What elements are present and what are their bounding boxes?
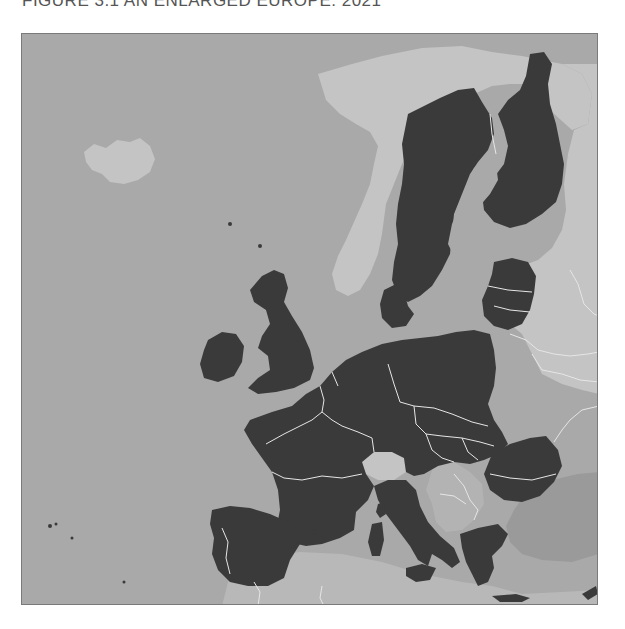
map-frame bbox=[21, 33, 598, 605]
europe-map bbox=[22, 34, 598, 605]
figure-title: FIGURE 3.1 AN ENLARGED EUROPE: 2021 bbox=[22, 0, 382, 11]
